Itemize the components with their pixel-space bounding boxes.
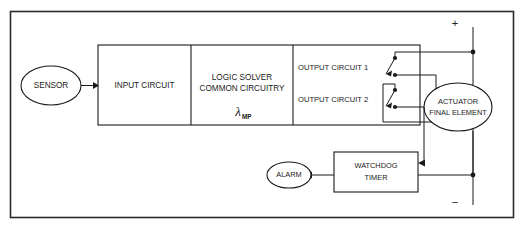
output-circuit-1-label: OUTPUT CIRCUIT 1 — [298, 63, 368, 72]
lambda-symbol: λ — [234, 104, 241, 119]
watchdog-label-line2: TIMER — [365, 173, 388, 182]
alarm-label: ALARM — [276, 170, 301, 179]
actuator-label-line1: ACTUATOR — [438, 97, 478, 106]
diagram-canvas: + − INPUT CIRCUIT LOGIC SOLVER COMMON CI… — [0, 0, 524, 229]
watchdog-label-line1: WATCHDOG — [354, 161, 397, 170]
block-diagram: + − INPUT CIRCUIT LOGIC SOLVER COMMON CI… — [0, 0, 524, 229]
negative-terminal-label: − — [452, 196, 458, 208]
output-circuit-2-label: OUTPUT CIRCUIT 2 — [298, 95, 368, 104]
positive-terminal-label: + — [452, 17, 458, 29]
lambda-subscript: MP — [242, 113, 252, 120]
junction-rail-out1 — [471, 50, 476, 55]
logic-solver-label-line1: LOGIC SOLVER — [212, 73, 272, 82]
actuator-label-line2: FINAL ELEMENT — [429, 108, 487, 117]
sensor-label: SENSOR — [34, 81, 69, 90]
logic-solver-label-line2: COMMON CIRCUITRY — [200, 84, 285, 93]
arrowhead-into-watchdog — [418, 160, 425, 167]
input-circuit-label: INPUT CIRCUIT — [115, 81, 175, 90]
